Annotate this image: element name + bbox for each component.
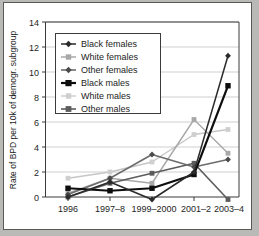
x-tick-label-1996: 1996: [58, 204, 78, 214]
y-tick-label: 4: [34, 143, 39, 153]
legend-label: Black males: [81, 78, 130, 88]
data-point: [225, 53, 231, 59]
legend-label: Other males: [81, 104, 131, 114]
y-tick-label: 12: [29, 43, 39, 53]
data-point: [225, 157, 231, 163]
data-point: [226, 127, 231, 132]
series-other-males: [66, 161, 231, 202]
data-point: [225, 83, 230, 88]
data-point: [150, 181, 155, 186]
data-point: [66, 176, 71, 181]
x-tick-label-1999-2000: 1999–2000: [131, 204, 176, 214]
x-axis-tick-labels: 1996 1997–8 1999–2000 2001–2 2003–4: [58, 204, 244, 214]
y-tick-label: 2: [34, 168, 39, 178]
data-point: [150, 160, 155, 165]
x-tick-label-1997-8: 1997–8: [95, 204, 125, 214]
data-point: [108, 170, 113, 175]
line-chart: 14 12 10 8 6 4 2 0 Rate of BPD per 10k o…: [0, 0, 259, 236]
data-point: [192, 117, 197, 122]
x-tick-label-2003-4: 2003–4: [214, 204, 244, 214]
figure-page: 14 12 10 8 6 4 2 0 Rate of BPD per 10k o…: [0, 0, 259, 236]
y-tick-label: 10: [29, 68, 39, 78]
y-tick-label: 6: [34, 118, 39, 128]
data-point: [192, 132, 197, 137]
square-icon: [66, 93, 71, 98]
series-white-males: [66, 127, 231, 181]
y-axis-tick-labels: 14 12 10 8 6 4 2 0: [29, 18, 39, 203]
y-tick-label: 8: [34, 93, 39, 103]
data-point: [226, 197, 231, 202]
data-point: [226, 151, 231, 156]
data-point: [107, 188, 112, 193]
y-tick-label: 14: [29, 18, 39, 28]
data-point: [65, 186, 70, 191]
square-icon: [66, 106, 72, 112]
square-icon: [65, 80, 71, 86]
legend-label: White males: [81, 91, 131, 101]
legend-label: Other females: [81, 65, 138, 75]
y-axis-label: Rate of BPD per 10k of demogr. subgroup: [8, 31, 18, 190]
data-point: [149, 186, 154, 191]
square-icon: [66, 54, 71, 59]
y-tick-label: 0: [34, 193, 39, 203]
y-axis-ticks: [42, 22, 46, 197]
x-tick-label-2001-2: 2001–2: [181, 204, 211, 214]
legend-label: White females: [81, 52, 139, 62]
legend-label: Black females: [81, 39, 138, 49]
legend: Black females White females Other female…: [56, 34, 161, 115]
data-point: [150, 171, 155, 176]
